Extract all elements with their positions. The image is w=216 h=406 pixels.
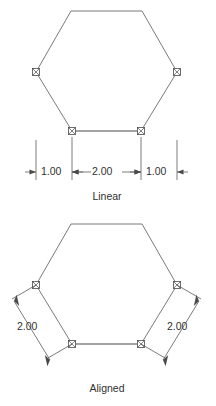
lower-dimension-right-aligned[interactable]: 2.00 [141, 285, 201, 366]
upper-grip-bottom-right[interactable] [138, 128, 145, 135]
lower-dimension-left-aligned[interactable]: 2.00 [12, 285, 72, 366]
upper-figure-caption: Linear [92, 190, 122, 202]
upper-dimension-center[interactable]: 2.00 [72, 165, 141, 177]
upper-figure-group: 1.00 2.00 1.00 Linear [25, 11, 188, 202]
upper-hexagon-shape [36, 11, 177, 131]
upper-dimension-right[interactable]: 1.00 [130, 165, 188, 177]
lower-figure-group: 2.00 2.00 Aligned [12, 224, 201, 394]
lower-dim-label-right: 2.00 [167, 320, 188, 332]
technical-drawing-canvas: 1.00 2.00 1.00 Linear [0, 0, 216, 406]
upper-grip-bottom-left[interactable] [69, 128, 76, 135]
lower-dim-label-left: 2.00 [17, 320, 38, 332]
upper-dim-label-right: 1.00 [146, 165, 167, 177]
upper-grip-left[interactable] [33, 69, 40, 76]
upper-dim-label-left: 1.00 [41, 165, 62, 177]
upper-grip-right[interactable] [174, 69, 181, 76]
upper-dim-label-center: 2.00 [92, 165, 113, 177]
lower-figure-caption: Aligned [89, 382, 124, 394]
drawing-svg: 1.00 2.00 1.00 Linear [0, 0, 216, 406]
lower-hexagon-shape [36, 224, 177, 344]
